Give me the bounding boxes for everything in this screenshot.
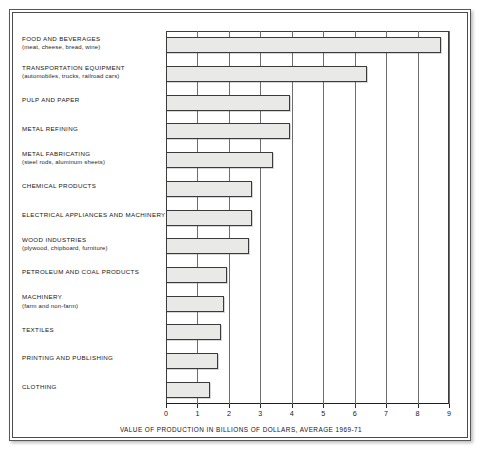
x-tick-label: 9 bbox=[441, 409, 457, 418]
bar bbox=[166, 152, 273, 168]
category-label-main: FOOD AND BEVERAGES bbox=[22, 35, 164, 44]
category-label: METAL FABRICATING(steel rods, aluminum s… bbox=[22, 150, 164, 167]
bar bbox=[166, 353, 218, 369]
category-label-main: METAL REFINING bbox=[22, 125, 164, 134]
x-tick-label: 8 bbox=[410, 409, 426, 418]
category-label-main: TRANSPORTATION EQUIPMENT bbox=[22, 64, 164, 73]
bar-chart: FOOD AND BEVERAGES(meat, cheese, bread, … bbox=[0, 0, 482, 461]
x-tick-label: 3 bbox=[252, 409, 268, 418]
x-tick-mark bbox=[197, 404, 198, 408]
gridline bbox=[386, 31, 387, 404]
category-label: MACHINERY(farm and non-farm) bbox=[22, 293, 164, 310]
gridline bbox=[418, 31, 419, 404]
plot-area bbox=[166, 31, 449, 404]
x-axis: 0123456789 bbox=[166, 404, 449, 422]
x-tick-mark bbox=[292, 404, 293, 408]
category-label-main: CHEMICAL PRODUCTS bbox=[22, 182, 164, 191]
bar bbox=[166, 324, 221, 340]
category-label-main: TEXTILES bbox=[22, 326, 164, 335]
category-label: PULP AND PAPER bbox=[22, 96, 164, 105]
category-label-main: METAL FABRICATING bbox=[22, 150, 164, 159]
bar bbox=[166, 210, 252, 226]
x-tick-mark bbox=[449, 404, 450, 408]
category-label-main: PRINTING AND PUBLISHING bbox=[22, 354, 164, 363]
category-label: CHEMICAL PRODUCTS bbox=[22, 182, 164, 191]
category-label-sub: (plywood, chipboard, furniture) bbox=[22, 244, 164, 252]
gridline bbox=[292, 31, 293, 404]
category-label-main: CLOTHING bbox=[22, 383, 164, 392]
category-label: WOOD INDUSTRIES(plywood, chipboard, furn… bbox=[22, 236, 164, 253]
category-label-sub: (farm and non-farm) bbox=[22, 302, 164, 310]
category-label-sub: (meat, cheese, bread, wine) bbox=[22, 43, 164, 51]
x-tick-label: 1 bbox=[189, 409, 205, 418]
gridline bbox=[355, 31, 356, 404]
category-label-main: PULP AND PAPER bbox=[22, 96, 164, 105]
x-tick-mark bbox=[355, 404, 356, 408]
x-tick-mark bbox=[418, 404, 419, 408]
x-tick-mark bbox=[166, 404, 167, 408]
category-label-main: WOOD INDUSTRIES bbox=[22, 236, 164, 245]
gridline bbox=[260, 31, 261, 404]
x-tick-mark bbox=[386, 404, 387, 408]
x-tick-mark bbox=[229, 404, 230, 408]
gridline bbox=[449, 31, 450, 404]
category-label: ELECTRICAL APPLIANCES AND MACHINERY bbox=[22, 211, 164, 220]
category-label-column: FOOD AND BEVERAGES(meat, cheese, bread, … bbox=[22, 31, 164, 404]
x-axis-caption: VALUE OF PRODUCTION IN BILLIONS OF DOLLA… bbox=[0, 426, 482, 433]
bar bbox=[166, 382, 210, 398]
x-tick-label: 0 bbox=[158, 409, 174, 418]
bar bbox=[166, 123, 290, 139]
chart-screenshot: FOOD AND BEVERAGES(meat, cheese, bread, … bbox=[0, 0, 482, 461]
x-tick-label: 4 bbox=[284, 409, 300, 418]
bar bbox=[166, 267, 227, 283]
category-label: PETROLEUM AND COAL PRODUCTS bbox=[22, 268, 164, 277]
bar bbox=[166, 37, 441, 53]
category-label-sub: (automobiles, trucks, railroad cars) bbox=[22, 72, 164, 80]
x-tick-label: 6 bbox=[347, 409, 363, 418]
category-label-main: MACHINERY bbox=[22, 293, 164, 302]
category-label-main: PETROLEUM AND COAL PRODUCTS bbox=[22, 268, 164, 277]
bar bbox=[166, 181, 252, 197]
category-label: CLOTHING bbox=[22, 383, 164, 392]
category-label-main: ELECTRICAL APPLIANCES AND MACHINERY bbox=[22, 211, 164, 220]
x-tick-label: 7 bbox=[378, 409, 394, 418]
x-tick-label: 5 bbox=[315, 409, 331, 418]
x-tick-label: 2 bbox=[221, 409, 237, 418]
category-label: TEXTILES bbox=[22, 326, 164, 335]
bar bbox=[166, 238, 249, 254]
category-label: FOOD AND BEVERAGES(meat, cheese, bread, … bbox=[22, 35, 164, 52]
x-tick-mark bbox=[323, 404, 324, 408]
category-label-sub: (steel rods, aluminum sheets) bbox=[22, 158, 164, 166]
x-tick-mark bbox=[260, 404, 261, 408]
gridline bbox=[323, 31, 324, 404]
category-label: PRINTING AND PUBLISHING bbox=[22, 354, 164, 363]
bar bbox=[166, 296, 224, 312]
bar bbox=[166, 66, 367, 82]
category-label: METAL REFINING bbox=[22, 125, 164, 134]
bar bbox=[166, 95, 290, 111]
category-label: TRANSPORTATION EQUIPMENT(automobiles, tr… bbox=[22, 64, 164, 81]
